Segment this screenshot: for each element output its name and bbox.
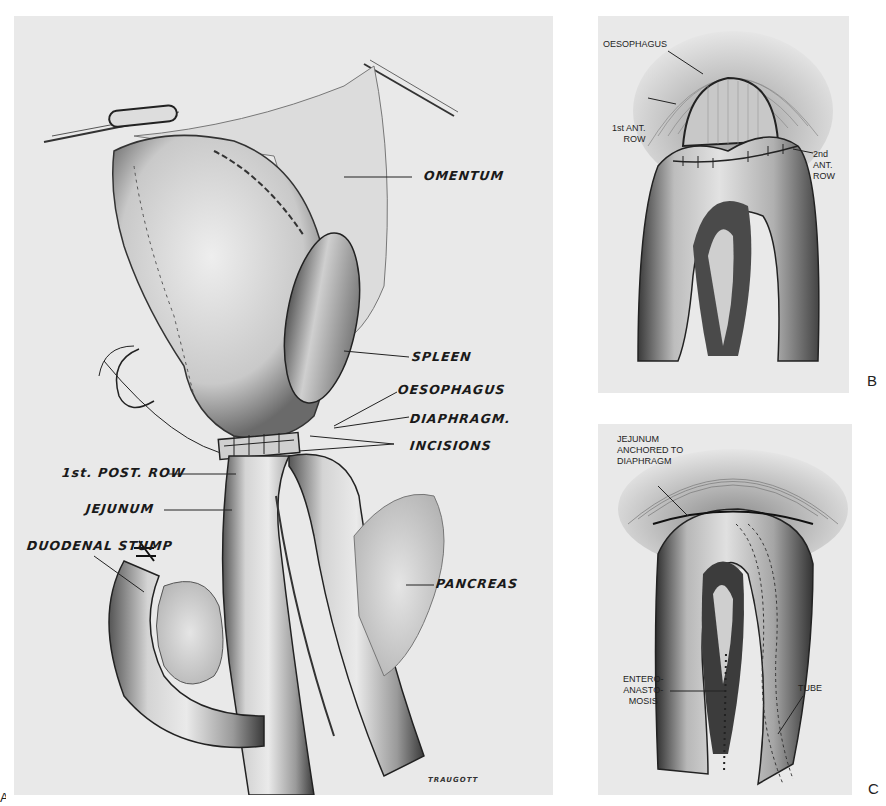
panel-c-illustration: JEJUNUM ANCHORED TO DIAPHRAGM ENTERO- AN… bbox=[598, 424, 852, 795]
surgical-illustration-b bbox=[598, 16, 849, 393]
label-jejunum-anchored: JEJUNUM ANCHORED TO DIAPHRAGM bbox=[617, 434, 683, 467]
label-pancreas: PANCREAS bbox=[435, 576, 519, 591]
label-incisions: INCISIONS bbox=[409, 438, 492, 453]
label-diaphragm: DIAPHRAGM. bbox=[409, 411, 512, 426]
label-first-ant-row: 1st ANT. ROW bbox=[612, 123, 646, 145]
label-jejunum-a: JEJUNUM bbox=[85, 501, 155, 516]
panel-b-illustration: OESOPHAGUS 1st ANT. ROW 2nd ANT. ROW bbox=[598, 16, 849, 393]
label-omentum: OMENTUM bbox=[423, 168, 505, 183]
label-first-post-row: 1st. POST. ROW bbox=[61, 465, 186, 480]
panel-a-illustration: OMENTUM SPLEEN OESOPHAGUS DIAPHRAGM. INC… bbox=[14, 16, 553, 795]
panel-letter-c: C bbox=[868, 780, 879, 797]
label-oesophagus-a: OESOPHAGUS bbox=[397, 382, 506, 397]
label-second-ant-row: 2nd ANT. ROW bbox=[813, 149, 835, 182]
label-spleen: SPLEEN bbox=[411, 349, 472, 364]
artist-signature: TRAUGOTT bbox=[428, 776, 478, 784]
panel-letter-a: A bbox=[0, 790, 6, 805]
panel-letter-b: B bbox=[867, 372, 877, 389]
label-duodenal-stump: DUODENAL STUMP bbox=[26, 538, 173, 553]
label-entero-anastomosis: ENTERO- ANASTO- MOSIS bbox=[623, 674, 664, 707]
label-oesophagus-b: OESOPHAGUS bbox=[603, 39, 667, 50]
label-tube: TUBE bbox=[798, 683, 822, 694]
surgical-illustration-c bbox=[598, 424, 852, 795]
surgical-illustration-a bbox=[14, 16, 553, 795]
